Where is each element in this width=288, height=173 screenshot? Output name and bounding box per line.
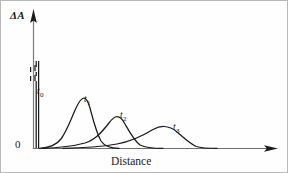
curve-t0 [31,61,39,148]
plot-area [1,1,288,173]
axis-group [30,9,278,152]
curve-t1 [40,98,120,148]
chart-figure: ΔA 0 Distance t0 t1 t2 t3 [0,0,288,173]
